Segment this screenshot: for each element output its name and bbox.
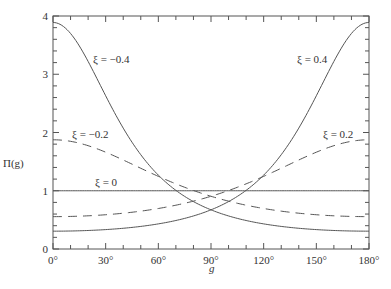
label-xi-plus-0.4: ξ = 0.4 [297, 53, 328, 66]
x-tick-label: 30° [98, 254, 113, 266]
x-tick-label: 60° [151, 254, 166, 266]
phase-function-chart: 0°30°60°90°120°150°180°01234 Π(g) g ξ = … [0, 0, 391, 289]
x-tick-label: 180° [359, 254, 380, 266]
label-xi-minus-0.4: ξ = −0.4 [93, 53, 130, 66]
x-tick-label: 120° [253, 254, 274, 266]
y-tick-label: 3 [43, 68, 49, 80]
y-tick-label: 2 [43, 127, 49, 139]
y-tick-label: 0 [43, 243, 49, 255]
y-tick-label: 1 [43, 185, 49, 197]
x-axis-title: g [209, 262, 215, 274]
y-axis-title: Π(g) [3, 157, 24, 170]
x-tick-label: 0° [48, 254, 58, 266]
y-tick-label: 4 [43, 10, 49, 22]
x-tick-label: 150° [306, 254, 327, 266]
label-xi-minus-0.2: ξ = −0.2 [72, 128, 109, 141]
label-xi-0: ξ = 0 [95, 176, 118, 189]
label-xi-plus-0.2: ξ = 0.2 [323, 128, 353, 141]
